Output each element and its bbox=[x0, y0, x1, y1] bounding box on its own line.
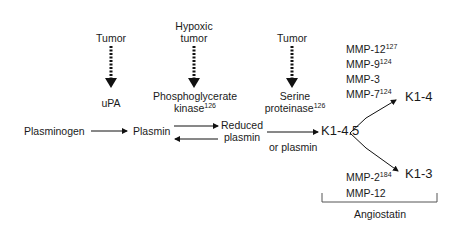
serine-line1: Serine bbox=[262, 90, 328, 102]
dotted-arrow-tumor-upa bbox=[105, 46, 117, 88]
mmp-upper-list: MMP-12127 MMP-9124 MMP-3 MMP-7124 bbox=[346, 42, 397, 102]
source-tumor-1: Tumor bbox=[91, 32, 131, 44]
mmp-upper-item: MMP-7124 bbox=[346, 87, 397, 102]
node-k1-4-5: K1-4.5 bbox=[321, 125, 359, 137]
mmp-lower-list: MMP-2184 MMP-12 bbox=[346, 169, 392, 201]
mmp-upper-item: MMP-12127 bbox=[346, 42, 397, 57]
node-k1-4: K1-4 bbox=[405, 91, 432, 103]
node-plasminogen: Plasminogen bbox=[24, 125, 85, 137]
dotted-arrow-tumor-serine bbox=[286, 46, 298, 88]
mmp-upper-item: MMP-3 bbox=[346, 72, 397, 87]
reduced-line1: Reduced bbox=[218, 119, 266, 131]
pgk-line1: Phosphoglycerate bbox=[150, 90, 240, 102]
node-reduced-plasmin: Reduced plasmin bbox=[218, 119, 266, 143]
mmp-lower-item: MMP-2184 bbox=[346, 169, 392, 185]
pgk-line2: kinase126 bbox=[150, 102, 240, 114]
node-k1-3: K1-3 bbox=[405, 168, 432, 180]
hypoxic-line2: tumor bbox=[164, 32, 224, 44]
reduced-line2: plasmin bbox=[218, 131, 266, 143]
mmp-lower-item: MMP-12 bbox=[346, 185, 392, 201]
product-upa: uPA bbox=[91, 97, 131, 109]
dotted-arrow-hypoxic-pgk bbox=[188, 46, 200, 88]
node-plasmin: Plasmin bbox=[133, 125, 170, 137]
label-angiostatin: Angiostatin bbox=[350, 208, 410, 220]
hypoxic-line1: Hypoxic bbox=[164, 20, 224, 32]
mmp-upper-item: MMP-9124 bbox=[346, 57, 397, 72]
product-phosphoglycerate-kinase: Phosphoglycerate kinase126 bbox=[150, 90, 240, 114]
serine-line2: proteinase126 bbox=[262, 102, 328, 114]
product-serine-proteinase: Serine proteinase126 bbox=[262, 90, 328, 114]
source-hypoxic-tumor: Hypoxic tumor bbox=[164, 20, 224, 44]
source-tumor-2: Tumor bbox=[272, 32, 312, 44]
label-or-plasmin: or plasmin bbox=[269, 141, 317, 153]
